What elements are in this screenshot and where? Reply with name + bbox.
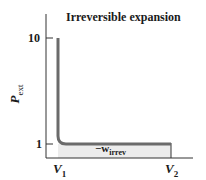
pressure-path bbox=[58, 38, 171, 144]
y-tick-label-10: 10 bbox=[28, 31, 40, 46]
y-axis-label-main: P bbox=[7, 96, 22, 104]
v1-main: V bbox=[53, 161, 62, 176]
y-tick-label-1: 1 bbox=[36, 137, 42, 152]
y-axis-label: Pext bbox=[0, 79, 35, 109]
v2-sub: 2 bbox=[174, 169, 179, 179]
x-tick-label-v2: V2 bbox=[165, 161, 178, 179]
y-axis-label-sub: ext bbox=[15, 85, 25, 96]
v2-main: V bbox=[165, 161, 174, 176]
work-label-sub: irrev bbox=[109, 148, 126, 157]
x-tick-label-v1: V1 bbox=[53, 161, 66, 179]
v1-sub: 1 bbox=[62, 169, 67, 179]
chart-title: Irreversible expansion bbox=[66, 10, 181, 25]
work-area-label: −wirrev bbox=[95, 142, 126, 157]
work-label-main: −w bbox=[95, 142, 109, 154]
